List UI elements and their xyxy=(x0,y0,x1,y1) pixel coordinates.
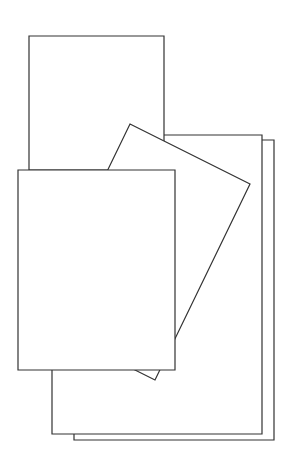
overlapping-papers-drawing xyxy=(0,0,285,454)
front-sheet xyxy=(18,170,175,370)
